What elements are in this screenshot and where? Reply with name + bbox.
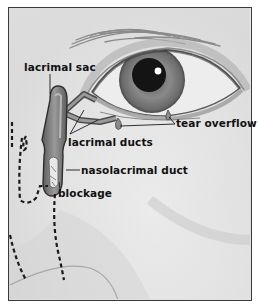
label-blockage: blockage [58, 188, 112, 199]
pupil [132, 58, 166, 92]
label-lacrimal-sac: lacrimal sac [24, 62, 96, 73]
eye-anatomy-illustration [0, 0, 258, 306]
blockage-region [49, 157, 58, 188]
label-lacrimal-ducts: lacrimal ducts [68, 137, 153, 148]
label-nasolacrimal-duct: nasolacrimal duct [81, 165, 188, 176]
pupil-highlight [155, 68, 162, 75]
diagram-stage: lacrimal sac lacrimal ducts tear overflo… [0, 0, 258, 306]
label-tear-overflow: tear overflow [176, 118, 257, 129]
